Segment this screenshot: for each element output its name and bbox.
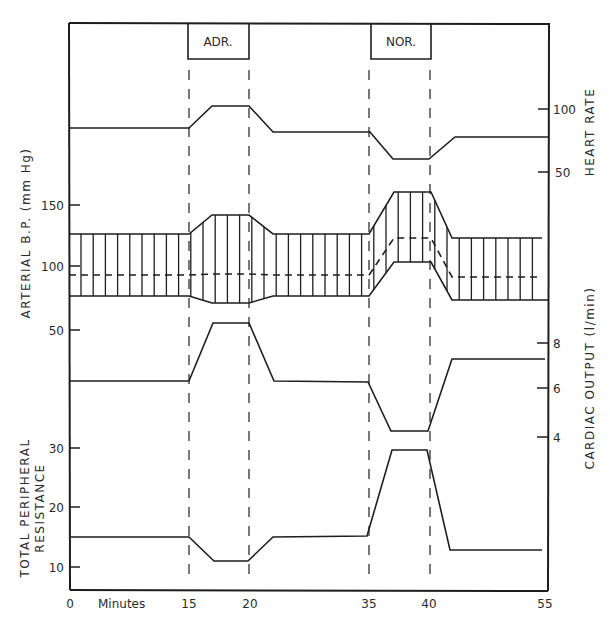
x-tick-40: 40 — [421, 597, 436, 611]
heart-rate-axis: 100 50 HEART RATE — [538, 88, 597, 180]
systolic-line — [69, 192, 542, 238]
heart-rate-line — [69, 106, 548, 159]
co-tick-6: 6 — [553, 382, 561, 396]
x-tick-20: 20 — [242, 597, 257, 611]
x-axis-title: Minutes — [98, 597, 145, 611]
adr-label: ADR. — [203, 35, 232, 49]
infusion-dashed-lines — [189, 70, 430, 582]
cardiac-output-line — [69, 323, 545, 431]
bp-pulse-hatching — [81, 192, 532, 303]
bp-tick-100: 100 — [41, 260, 64, 274]
x-tick-0: 0 — [66, 597, 74, 611]
bp-axis: 150 100 50 ARTERIAL B.P. (mm Hg) — [19, 148, 80, 338]
diastolic-line — [69, 262, 548, 303]
x-tick-35: 35 — [361, 597, 376, 611]
co-tick-4: 4 — [553, 431, 561, 445]
adr-marker: ADR. — [188, 23, 249, 59]
hr-tick-50: 50 — [555, 166, 570, 180]
heart-rate-axis-title: HEART RATE — [583, 88, 597, 176]
nor-label: NOR. — [386, 35, 416, 49]
x-axis: 0 Minutes 15 20 35 40 55 — [66, 597, 552, 611]
tpr-line — [69, 450, 542, 561]
haemodynamic-chart: ADR. NOR. 150 100 50 ARTERIAL B.P. (mm H… — [0, 0, 610, 635]
co-tick-8: 8 — [553, 337, 561, 351]
tpr-axis-title-line1: TOTAL PERIPHERAL — [18, 438, 32, 578]
cardiac-output-axis: 8 6 4 CARDIAC OUTPUT (l/min) — [537, 287, 597, 470]
cardiac-output-axis-title: CARDIAC OUTPUT (l/min) — [583, 287, 597, 470]
tpr-tick-10: 10 — [49, 561, 64, 575]
tpr-tick-30: 30 — [49, 442, 64, 456]
bp-tick-150: 150 — [41, 199, 64, 213]
tpr-axis-title-line2: RESISTANCE — [33, 463, 47, 552]
bp-tick-50: 50 — [49, 324, 64, 338]
x-tick-15: 15 — [181, 597, 196, 611]
tpr-tick-20: 20 — [49, 501, 64, 515]
bp-axis-title: ARTERIAL B.P. (mm Hg) — [19, 148, 33, 319]
chart-frame — [69, 23, 550, 591]
x-tick-55: 55 — [537, 597, 552, 611]
hr-tick-100: 100 — [553, 103, 576, 117]
nor-marker: NOR. — [371, 23, 431, 59]
